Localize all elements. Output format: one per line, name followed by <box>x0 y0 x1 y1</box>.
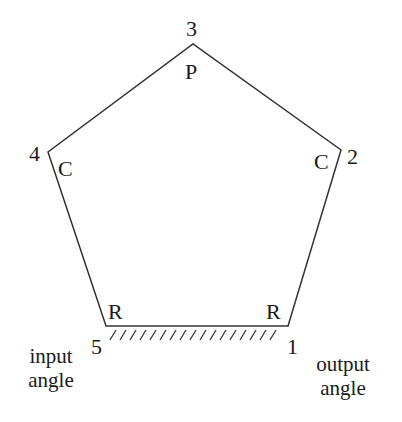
input-angle-line2: angle <box>18 368 84 392</box>
joint-label-revolute-1: R <box>266 301 281 323</box>
vertex-label-1: 1 <box>287 336 298 358</box>
output-angle-annotation: output angle <box>305 352 381 400</box>
output-angle-line1: output <box>305 352 381 376</box>
joint-label-revolute-5: R <box>108 301 123 323</box>
input-angle-annotation: input angle <box>18 344 84 392</box>
vertex-label-2: 2 <box>347 146 358 168</box>
joint-label-cylindrical-4: C <box>58 158 73 180</box>
five-bar-linkage-diagram: 3 4 2 5 1 P C C R R input angle output a… <box>0 0 402 422</box>
input-angle-line1: input <box>18 344 84 368</box>
vertex-label-3: 3 <box>186 18 197 40</box>
joint-label-cylindrical-2: C <box>314 151 329 173</box>
joint-label-prismatic: P <box>185 61 197 83</box>
vertex-label-5: 5 <box>91 336 102 358</box>
ground-hatching <box>110 330 276 340</box>
pentagon-linkage <box>48 44 341 326</box>
output-angle-line2: angle <box>305 376 381 400</box>
vertex-label-4: 4 <box>29 143 40 165</box>
